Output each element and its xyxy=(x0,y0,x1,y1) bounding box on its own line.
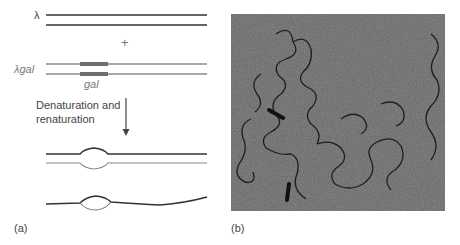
heteroduplex1-grey-strand xyxy=(46,163,207,169)
process-arrow-head xyxy=(123,129,130,136)
lambda-label: λ xyxy=(34,9,40,21)
panel-b-label: (b) xyxy=(231,222,244,234)
panel-a-label: (a) xyxy=(14,222,27,234)
denaturation-label-line1: Denaturation and xyxy=(36,98,120,112)
denaturation-label-line2: renaturation xyxy=(36,112,120,126)
gal-label: gal xyxy=(84,78,99,90)
heteroduplex1-dark-strand xyxy=(46,148,207,154)
denaturation-label: Denaturation and renaturation xyxy=(36,98,120,126)
micrograph-texture xyxy=(231,14,445,211)
heteroduplex2-loop-strand xyxy=(80,202,111,210)
gal-segment-top xyxy=(80,62,108,66)
lambda-gal-label: λgal xyxy=(14,63,34,75)
marker-arrow-lower xyxy=(287,184,289,200)
electron-micrograph xyxy=(231,14,445,211)
heteroduplex2-dark-strand xyxy=(46,196,207,205)
gal-segment-bottom xyxy=(80,72,108,76)
plus-sign: + xyxy=(121,35,129,50)
